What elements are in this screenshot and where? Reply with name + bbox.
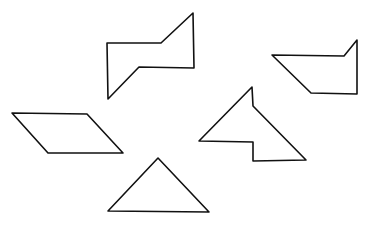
tangram-canvas — [0, 0, 373, 228]
triangle-shape — [108, 158, 209, 212]
bowtie-hexagon-shape — [107, 13, 194, 99]
parallelogram-shape — [12, 113, 123, 153]
boat-pentagon-shape — [272, 40, 357, 94]
notched-arrow-shape — [199, 87, 306, 161]
